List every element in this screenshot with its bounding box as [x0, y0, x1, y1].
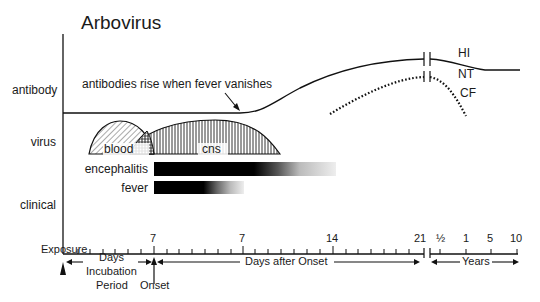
span-label-years: Years	[462, 256, 490, 267]
encephalitis-bar	[154, 162, 336, 176]
tick-label-onset-7: 7	[239, 233, 245, 244]
virus-label-cns: cns	[202, 143, 221, 155]
marker-label-onset: Onset	[140, 280, 169, 291]
span-label-incubation: Incubation	[86, 266, 137, 277]
row-label-antibody: antibody	[12, 84, 56, 96]
fever-bar	[154, 181, 244, 194]
clinical-label-fever: fever	[40, 182, 148, 194]
tick-label-10-years: 10	[510, 233, 522, 244]
exposure-marker-icon	[60, 262, 66, 275]
x-axis-ticks	[78, 246, 517, 254]
virus-label-blood: blood	[104, 143, 133, 155]
tick-label-incubation-7: 7	[150, 233, 156, 244]
marker-label-exposure: Exposure	[41, 244, 87, 255]
annotation-antibody-rise: antibodies rise when fever vanishes	[82, 78, 272, 90]
tick-label-half-year: ½	[436, 233, 445, 244]
row-label-clinical: clinical	[8, 199, 56, 211]
span-label-period: Period	[96, 280, 128, 291]
span-label-days-after-onset: Days after Onset	[245, 256, 328, 267]
diagram-title: Arbovirus	[81, 13, 161, 32]
tick-label-14: 14	[326, 233, 338, 244]
antibody-curve-cf	[330, 77, 424, 114]
curve-label-cf: CF	[460, 87, 476, 99]
tick-label-21: 21	[414, 233, 426, 244]
clinical-label-encephalitis: encephalitis	[40, 163, 148, 175]
curve-label-nt: NT	[458, 68, 474, 80]
axis-break-marks	[424, 52, 430, 82]
tick-label-1-year: 1	[463, 233, 469, 244]
row-label-virus: virus	[12, 136, 56, 148]
antibody-curve-hi-years	[430, 59, 520, 70]
tick-label-5-years: 5	[487, 233, 493, 244]
curve-label-hi: HI	[458, 47, 470, 59]
span-label-days: Days	[99, 252, 124, 263]
